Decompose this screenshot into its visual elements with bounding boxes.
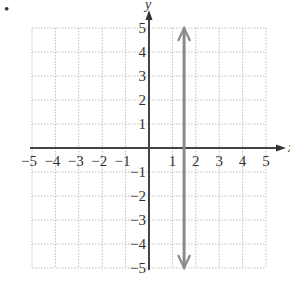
- axes: [30, 10, 286, 270]
- x-tick-label: 5: [262, 153, 270, 169]
- y-tick-label: −3: [130, 212, 146, 228]
- coordinate-plane: • −5−4−3−2−11234554321−1−2−3−4−5 x y: [0, 0, 290, 282]
- x-tick-label: 2: [192, 153, 200, 169]
- x-tick-label: −4: [44, 153, 60, 169]
- y-tick-label: −4: [130, 236, 146, 252]
- x-tick-label: 1: [169, 153, 177, 169]
- y-axis-label: y: [143, 0, 152, 12]
- y-tick-label: 3: [139, 68, 147, 84]
- x-tick-label: −3: [68, 153, 84, 169]
- x-axis-arrow-icon: [276, 145, 286, 152]
- x-tick-label: 4: [239, 153, 247, 169]
- x-tick-label: −1: [115, 153, 131, 169]
- x-tick-label: −2: [91, 153, 107, 169]
- y-tick-label: 4: [139, 44, 147, 60]
- y-tick-label: −2: [130, 188, 146, 204]
- y-tick-label: 2: [139, 92, 147, 108]
- y-tick-label: 5: [139, 20, 147, 36]
- x-tick-label: −5: [21, 153, 37, 169]
- y-tick-label: −5: [130, 260, 146, 276]
- bullet-marker: •: [4, 1, 9, 17]
- y-tick-label: −1: [130, 164, 146, 180]
- x-tick-label: 3: [215, 153, 223, 169]
- x-axis-label: x: [287, 140, 290, 155]
- y-tick-label: 1: [139, 116, 147, 132]
